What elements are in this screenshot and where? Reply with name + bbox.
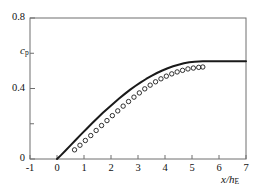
x-tick-label: 5 <box>180 162 204 173</box>
x-tick-label: 3 <box>126 162 150 173</box>
x-tick-label: 4 <box>153 162 177 173</box>
x-tick-label: 2 <box>99 162 123 173</box>
x-tick-label: 7 <box>234 162 258 173</box>
x-tick-label: -1 <box>18 162 42 173</box>
plot-frame <box>30 18 246 159</box>
x-tick-label: 6 <box>207 162 231 173</box>
x-tick-label: 0 <box>45 162 69 173</box>
y-tick-label: 0 <box>0 152 25 163</box>
y-axis-label: cp <box>20 44 29 57</box>
y-tick-label: 0.8 <box>0 11 25 22</box>
y-tick-label: 0.4 <box>0 82 25 93</box>
x-tick-label: 1 <box>72 162 96 173</box>
plot-box <box>30 18 246 159</box>
figure: cp x/hE -10123456700.40.8 <box>0 0 267 195</box>
x-axis-label: x/hE <box>221 173 239 186</box>
